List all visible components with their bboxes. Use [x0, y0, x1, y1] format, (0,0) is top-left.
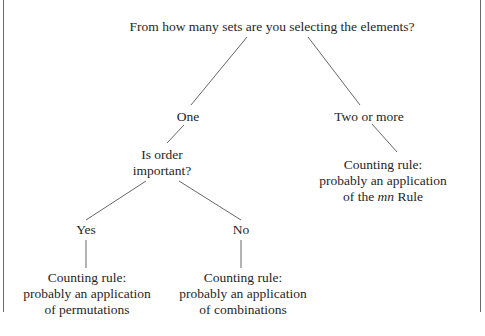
permutations-line3: of permutations: [23, 302, 150, 318]
branch-two-or-more-node: Two or more: [334, 109, 404, 125]
order-question-node: Is order important?: [133, 147, 191, 179]
permutations-line1: Counting rule:: [23, 270, 150, 286]
combinations-result-node: Counting rule: probably an application o…: [179, 270, 306, 318]
root-question-node: From how many sets are you selecting the…: [130, 19, 415, 35]
branch-yes-node: Yes: [76, 222, 96, 238]
branch-two-or-more-label: Two or more: [334, 109, 404, 125]
mn-rule-line3: of the mn Rule: [319, 189, 446, 205]
mn-rule-line3-prefix: of the: [343, 189, 378, 204]
edge-root-to-two-or-more: [308, 37, 360, 105]
branch-one-label: One: [177, 109, 200, 125]
combinations-line3: of combinations: [179, 302, 306, 318]
mn-rule-result-node: Counting rule: probably an application o…: [319, 157, 446, 205]
permutations-line2: probably an application: [23, 286, 150, 302]
permutations-result-node: Counting rule: probably an application o…: [23, 270, 150, 318]
edge-one-to-order-question: [167, 125, 184, 143]
branch-no-label: No: [233, 222, 250, 238]
order-question-line2: important?: [133, 163, 191, 179]
mn-rule-line1: Counting rule:: [319, 157, 446, 173]
mn-rule-line2: probably an application: [319, 173, 446, 189]
edge-order-to-no: [179, 181, 241, 220]
edge-two-or-more-to-mn-rule: [372, 124, 397, 152]
combinations-line2: probably an application: [179, 286, 306, 302]
edge-order-to-yes: [86, 181, 146, 220]
combinations-line1: Counting rule:: [179, 270, 306, 286]
mn-rule-line3-suffix: Rule: [394, 189, 423, 204]
root-question-text: From how many sets are you selecting the…: [130, 19, 415, 35]
order-question-line1: Is order: [133, 147, 191, 163]
branch-one-node: One: [177, 109, 200, 125]
mn-rule-line3-italic: mn: [378, 189, 395, 204]
branch-yes-label: Yes: [76, 222, 96, 238]
branch-no-node: No: [233, 222, 250, 238]
edge-root-to-one: [191, 37, 247, 105]
